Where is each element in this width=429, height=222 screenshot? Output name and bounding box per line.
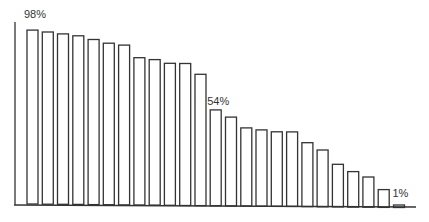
bar-12 (195, 74, 206, 205)
bar-23 (363, 177, 374, 207)
value-label: 1% (393, 187, 409, 199)
bar-2 (42, 32, 53, 204)
bar-21 (332, 164, 343, 207)
bar-24 (378, 190, 389, 208)
bar-16 (256, 130, 267, 206)
bar-5 (88, 40, 99, 205)
value-label: 98% (24, 8, 46, 20)
bar-10 (164, 63, 175, 205)
bar-4 (73, 36, 84, 205)
bar-13 (210, 110, 221, 206)
value-label: 54% (207, 95, 229, 107)
bars-group (27, 30, 405, 207)
bar-chart: 98%54%1% (0, 0, 429, 222)
bar-14 (226, 117, 237, 206)
bar-15 (241, 128, 252, 206)
bar-11 (180, 64, 191, 206)
bar-1 (27, 30, 38, 204)
bar-6 (103, 43, 114, 205)
bar-19 (302, 143, 313, 207)
bar-9 (149, 60, 160, 206)
bar-17 (271, 132, 282, 207)
bar-3 (58, 34, 69, 204)
bar-18 (287, 132, 298, 207)
bar-7 (119, 45, 130, 205)
bar-20 (317, 150, 328, 207)
bar-22 (348, 172, 359, 208)
bar-8 (134, 58, 145, 205)
